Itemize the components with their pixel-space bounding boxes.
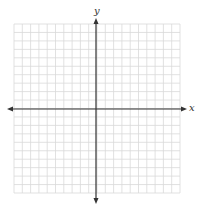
y-axis-down-arrow-icon — [94, 198, 99, 204]
coordinate-plane — [0, 0, 199, 206]
x-axis-left-arrow-icon — [7, 107, 13, 112]
x-axis-right-arrow-icon — [181, 107, 187, 112]
y-axis-label: y — [94, 6, 100, 16]
y-axis-up-arrow-icon — [94, 18, 99, 24]
x-axis-label: x — [189, 103, 195, 113]
